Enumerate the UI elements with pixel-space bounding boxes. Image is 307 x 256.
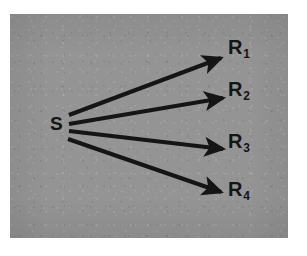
node-label-r1-subscript: 1 (243, 47, 250, 61)
node-label-source: S (50, 114, 63, 133)
node-label-r2-text: R (228, 78, 243, 100)
node-label-r4-subscript: 4 (243, 189, 250, 203)
node-label-r2: R2 (228, 79, 250, 102)
arrow-s-r1 (69, 58, 221, 115)
node-label-r1: R1 (228, 37, 250, 60)
node-label-source-text: S (50, 113, 63, 134)
node-label-r1-text: R (228, 36, 243, 58)
node-label-r3-text: R (228, 130, 243, 152)
figure-root: S R1 R2 R3 R4 (0, 0, 307, 256)
node-label-r3-subscript: 3 (243, 141, 250, 155)
arrow-s-r2 (69, 98, 223, 124)
node-label-r2-subscript: 2 (243, 89, 250, 103)
node-label-r3: R3 (228, 131, 250, 154)
node-label-r4: R4 (228, 179, 250, 202)
ray-arrows-group (0, 0, 307, 256)
node-label-r4-text: R (228, 178, 243, 200)
